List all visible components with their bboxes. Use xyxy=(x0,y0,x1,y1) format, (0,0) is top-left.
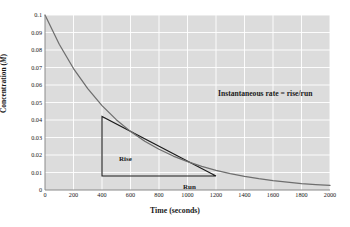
x-tick-label: 800 xyxy=(154,192,163,198)
x-tick-label: 1200 xyxy=(210,192,222,198)
annotation-run: Run xyxy=(183,183,196,191)
x-tick-label: 1600 xyxy=(267,192,279,198)
annotation-rise: Rise xyxy=(119,155,132,163)
x-tick-label: 1800 xyxy=(295,192,307,198)
plot-area: Instantaneous rate = rise/run Rise Run xyxy=(45,15,330,190)
y-tick-label: 0.02 xyxy=(31,152,42,158)
x-tick-label: 2000 xyxy=(324,192,336,198)
y-tick-label: 0.09 xyxy=(31,29,42,35)
y-tick-label: 0.04 xyxy=(31,117,42,123)
y-tick-label: 0.03 xyxy=(31,134,42,140)
data-layer xyxy=(45,15,330,190)
y-tick-label: 0.08 xyxy=(31,47,42,53)
y-tick-label: 0.06 xyxy=(31,82,42,88)
y-tick-label: 0.01 xyxy=(31,169,42,175)
concentration-vs-time-chart: Concentration (M) 00.010.020.030.040.050… xyxy=(0,0,350,227)
y-tick-label: 0.07 xyxy=(31,64,42,70)
x-tick-label: 1400 xyxy=(238,192,250,198)
x-axis-tick-labels: 0200400600800100012001400160018002000 xyxy=(45,192,330,204)
x-axis-label: Time (seconds) xyxy=(0,206,350,215)
y-tick-label: 0 xyxy=(39,187,42,193)
y-axis-tick-labels: 00.010.020.030.040.050.060.070.080.090.1 xyxy=(0,15,42,190)
y-tick-label: 0.05 xyxy=(31,99,42,105)
x-tick-label: 600 xyxy=(126,192,135,198)
annotation-instantaneous-rate: Instantaneous rate = rise/run xyxy=(218,89,312,98)
y-tick-label: 0.1 xyxy=(34,12,42,18)
x-tick-label: 400 xyxy=(97,192,106,198)
x-tick-label: 1000 xyxy=(181,192,193,198)
x-tick-label: 0 xyxy=(43,192,46,198)
x-tick-label: 200 xyxy=(69,192,78,198)
